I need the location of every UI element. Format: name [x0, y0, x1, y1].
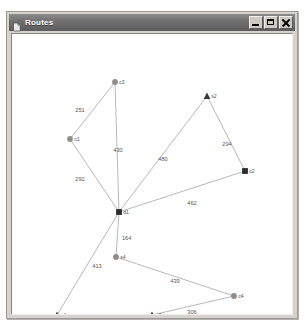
node-label-s1: s1 — [61, 312, 67, 314]
edge-d1-s2 — [119, 96, 207, 212]
edge-weight-label: 294 — [222, 141, 231, 147]
node-c1[interactable]: c1 — [67, 136, 80, 142]
node-c3[interactable]: c3 — [112, 79, 125, 85]
close-button[interactable] — [279, 16, 293, 29]
edge-weight-label: 251 — [75, 107, 84, 113]
node-label-d1: d1 — [123, 209, 129, 215]
maximize-icon — [265, 17, 277, 28]
node-c4[interactable]: c4 — [231, 293, 244, 299]
edge-weight-label: 164 — [122, 235, 131, 241]
edge-weight-label: 462 — [187, 200, 196, 206]
node-marker-triangle — [204, 93, 211, 99]
minimize-button[interactable] — [249, 16, 263, 29]
route-network-diagram[interactable]: 251430292480294462164413308439306 c3s2c1… — [12, 34, 292, 314]
window-titlebar[interactable]: Routes — [9, 14, 295, 31]
node-marker-circle — [67, 136, 73, 142]
node-label-s2: s2 — [211, 93, 217, 99]
node-s3[interactable]: s3 — [149, 312, 162, 314]
window-client-area: 251430292480294462164413308439306 c3s2c1… — [11, 33, 293, 315]
node-c2[interactable]: c2 — [242, 168, 255, 174]
edges-layer — [57, 82, 245, 314]
edge-weight-label: 306 — [187, 309, 196, 314]
edge-d1-s1 — [57, 212, 119, 314]
routes-window: Routes 251430292480294462164413308439306… — [6, 11, 298, 319]
node-marker-triangle — [54, 312, 61, 314]
node-label-c2: c2 — [249, 168, 255, 174]
node-label-c3: c3 — [119, 79, 125, 85]
edge-weight-label: 430 — [113, 147, 122, 153]
nodes-layer: c3s2c1c2d1s4c4s1s3 — [54, 79, 255, 314]
screenshot-root: Routes 251430292480294462164413308439306… — [0, 0, 306, 331]
edge-d1-c2 — [119, 171, 245, 212]
window-title: Routes — [25, 18, 248, 27]
edge-weight-label: 480 — [158, 156, 167, 162]
node-marker-square — [242, 168, 248, 174]
edge-s4-c4 — [116, 257, 234, 296]
edge-d1-s4 — [116, 212, 119, 257]
maximize-button[interactable] — [264, 16, 278, 29]
node-marker-circle — [112, 79, 118, 85]
edge-labels-layer: 251430292480294462164413308439306 — [75, 107, 231, 314]
edge-weight-label: 413 — [92, 263, 101, 269]
document-icon — [12, 18, 22, 28]
node-label-s4: s4 — [120, 254, 126, 260]
node-label-c1: c1 — [74, 136, 80, 142]
node-s1[interactable]: s1 — [54, 312, 67, 314]
node-marker-circle — [113, 254, 119, 260]
node-d1[interactable]: d1 — [116, 209, 129, 215]
edge-s2-c2 — [207, 96, 245, 171]
node-marker-circle — [231, 293, 237, 299]
minimize-icon — [250, 17, 262, 28]
node-s4[interactable]: s4 — [113, 254, 126, 260]
node-s2[interactable]: s2 — [204, 93, 217, 100]
close-icon — [280, 17, 292, 28]
edge-weight-label: 439 — [170, 278, 179, 284]
edge-weight-label: 292 — [75, 176, 84, 182]
node-label-c4: c4 — [238, 293, 244, 299]
node-marker-triangle — [149, 312, 156, 314]
node-label-s3: s3 — [156, 312, 162, 314]
node-marker-square — [116, 209, 122, 215]
